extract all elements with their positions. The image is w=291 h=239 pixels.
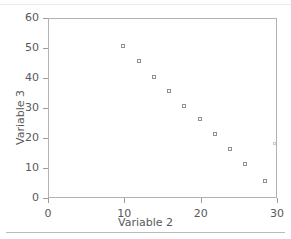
x-tick-mark: [201, 198, 202, 203]
y-tick-mark: [43, 18, 48, 19]
x-tick-mark: [124, 198, 125, 203]
y-axis-title: Variable 3: [14, 90, 27, 145]
data-point: [198, 117, 202, 121]
x-tick-mark: [277, 198, 278, 203]
y-tick-label: 10: [0, 162, 39, 173]
y-tick-label: 60: [0, 12, 39, 23]
bottom-divider: [6, 232, 285, 233]
data-point: [137, 59, 141, 63]
y-tick-mark: [43, 138, 48, 139]
x-axis-title: Variable 2: [0, 216, 291, 229]
y-tick-label: 40: [0, 72, 39, 83]
y-tick-mark: [43, 78, 48, 79]
data-point: [152, 75, 156, 79]
data-point: [273, 142, 276, 145]
y-tick-label: 0: [0, 192, 39, 203]
data-point: [243, 162, 247, 166]
data-point: [182, 104, 186, 108]
y-tick-mark: [43, 168, 48, 169]
data-point: [121, 44, 125, 48]
y-tick-mark: [43, 108, 48, 109]
plot-area-frame: [48, 18, 277, 198]
data-point: [228, 147, 232, 151]
top-divider: [0, 4, 291, 5]
data-point: [213, 132, 217, 136]
data-point: [263, 179, 267, 183]
y-tick-mark: [43, 48, 48, 49]
y-tick-label: 50: [0, 42, 39, 53]
data-point: [167, 89, 171, 93]
x-tick-mark: [48, 198, 49, 203]
scatter-plot-figure: 0102030405060 0102030 Variable 2 Variabl…: [0, 0, 291, 239]
